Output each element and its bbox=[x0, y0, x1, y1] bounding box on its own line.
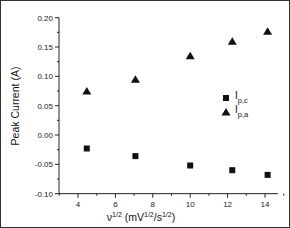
x-axis-title: ν1/2 (mV1/2/s1/2) bbox=[107, 211, 175, 223]
triangle-marker bbox=[186, 52, 195, 60]
x-tick-label: 4 bbox=[76, 200, 81, 209]
chart-frame: -0.10-0.050.000.050.100.150.20468101214 … bbox=[0, 0, 290, 228]
x-tick-label: 6 bbox=[113, 200, 118, 209]
triangle-marker bbox=[263, 27, 272, 34]
square-marker bbox=[132, 153, 138, 159]
legend-label: Ip,a bbox=[235, 104, 249, 119]
square-marker bbox=[84, 145, 90, 151]
y-axis-title: Peak Current (A) bbox=[9, 67, 21, 146]
square-marker bbox=[187, 163, 193, 169]
y-tick-label: 0.10 bbox=[37, 72, 53, 81]
square-marker bbox=[265, 172, 271, 178]
scatter-chart: -0.10-0.050.000.050.100.150.20468101214 … bbox=[1, 1, 289, 227]
y-tick-label: 0.20 bbox=[37, 14, 53, 23]
triangle-marker bbox=[131, 75, 140, 83]
x-tick-label: 8 bbox=[151, 200, 156, 209]
x-tick-label: 14 bbox=[261, 200, 270, 209]
y-tick-label: -0.05 bbox=[35, 160, 54, 169]
legend: Ip,cIp,a bbox=[222, 90, 250, 119]
legend-square-icon bbox=[223, 95, 229, 101]
y-tick-label: 0.15 bbox=[37, 43, 53, 52]
square-marker bbox=[229, 167, 235, 173]
legend-label: Ip,c bbox=[235, 90, 248, 105]
triangle-marker bbox=[228, 37, 237, 45]
y-tick-label: -0.10 bbox=[35, 190, 54, 199]
x-tick-label: 10 bbox=[186, 200, 195, 209]
y-tick-label: 0.05 bbox=[37, 102, 53, 111]
y-tick-label: 0.00 bbox=[37, 131, 53, 140]
triangle-marker bbox=[82, 87, 91, 95]
legend-triangle-icon bbox=[222, 108, 231, 116]
x-tick-label: 12 bbox=[223, 200, 232, 209]
